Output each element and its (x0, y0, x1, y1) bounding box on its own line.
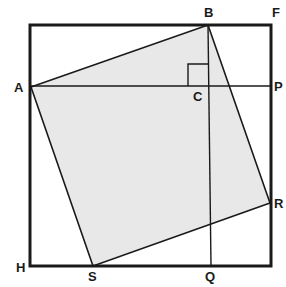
label-A: A (14, 80, 24, 95)
label-B: B (204, 5, 213, 20)
label-F: F (272, 5, 280, 20)
label-Q: Q (205, 269, 215, 284)
label-P: P (274, 79, 283, 94)
label-R: R (274, 196, 284, 211)
label-H: H (16, 260, 25, 275)
geometry-diagram: A B F C P R Q S H (0, 0, 286, 287)
label-C: C (193, 89, 203, 104)
inner-square-ABRS (31, 25, 270, 266)
label-S: S (88, 269, 97, 284)
